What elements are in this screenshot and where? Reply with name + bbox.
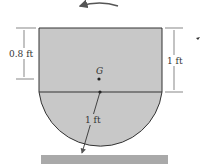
ground [41,155,168,164]
body-shape [39,28,162,146]
left-dim-label: 0.8 ft [9,49,34,59]
diagram: G 1 ft 0.8 ft 1 ft [0,0,212,168]
center-of-mass-label: G [96,66,103,76]
center-of-mass-point [97,77,100,80]
radius-label: 1 ft [85,115,101,125]
right-dim-label: 1 ft [167,56,183,66]
rotation-arrow-icon [80,3,118,6]
diagram-svg: G 1 ft 0.8 ft 1 ft [0,0,212,168]
stray-mark [196,37,200,40]
